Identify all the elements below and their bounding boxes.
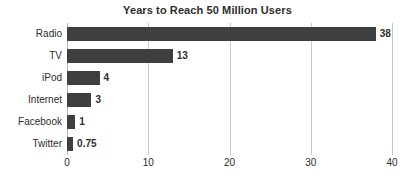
x-axis-tick-label: 0 [64,157,70,168]
bar-value-label: 1 [79,114,85,129]
x-axis-tick-labels: 0 10 20 30 40 [67,157,392,175]
bar-value-label: 38 [380,26,391,41]
y-axis-label: Radio [0,23,62,45]
plot-area: 38 13 4 3 1 0.75 [67,23,392,155]
y-axis-label: iPod [0,67,62,89]
y-axis-label: TV [0,45,62,67]
x-axis-tick-label: 30 [305,157,316,168]
bar-row: 4 [67,67,392,89]
y-axis-category-labels: Radio TV iPod Internet Facebook Twitter [0,23,62,155]
x-axis-tick-label: 40 [386,157,397,168]
bar [67,115,75,129]
bar-row: 13 [67,45,392,67]
y-axis-label: Internet [0,89,62,111]
gridline [392,23,393,155]
x-axis-tick-label: 20 [224,157,235,168]
bar [67,93,91,107]
bar [67,137,73,151]
bar [67,49,173,63]
bar-value-label: 4 [104,70,110,85]
bar-value-label: 0.75 [77,136,96,151]
chart-title: Years to Reach 50 Million Users [0,4,415,16]
bar-row: 3 [67,89,392,111]
bar-row: 0.75 [67,133,392,155]
bar-value-label: 3 [95,92,101,107]
bar-row: 1 [67,111,392,133]
bar [67,71,100,85]
bar-value-label: 13 [177,48,188,63]
y-axis-label: Facebook [0,111,62,133]
x-axis-tick-label: 10 [143,157,154,168]
bar-row: 38 [67,23,392,45]
y-axis-label: Twitter [0,133,62,155]
bar-chart: Years to Reach 50 Million Users Radio TV… [0,0,415,181]
bar-series: 38 13 4 3 1 0.75 [67,23,392,155]
bar [67,27,376,41]
